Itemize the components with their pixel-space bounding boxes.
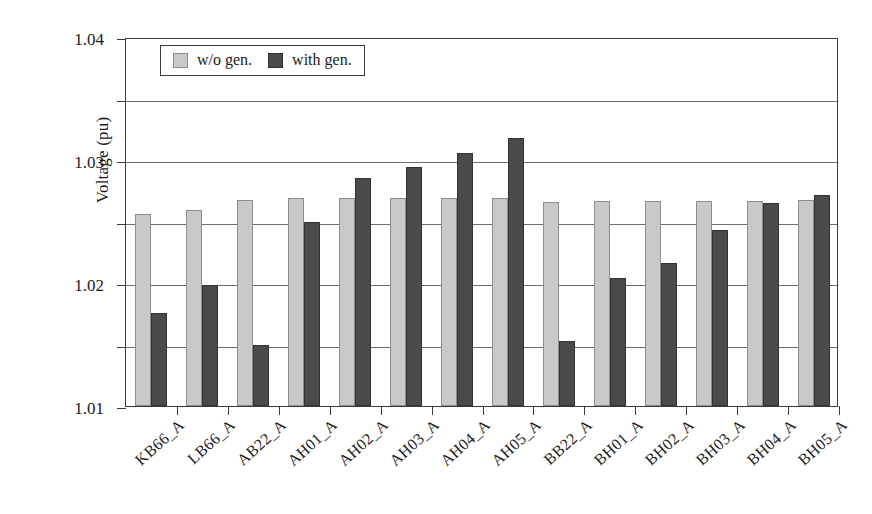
bar-group xyxy=(279,39,330,406)
x-axis-label: BH01_A xyxy=(591,416,647,469)
bar xyxy=(441,198,457,406)
x-axis-tick xyxy=(635,406,636,415)
legend-entry: w/o gen. xyxy=(173,51,252,69)
bar xyxy=(253,345,269,407)
bar-group xyxy=(228,39,279,406)
bar xyxy=(610,278,626,406)
bar xyxy=(559,341,575,406)
x-axis-label: BB22_A xyxy=(540,416,596,469)
y-axis-tick: 0.98 xyxy=(117,408,126,409)
bar-chart-figure: Voltage (pu) 1.041.031.021.011.000.990.9… xyxy=(0,0,872,514)
bar-group xyxy=(533,39,584,406)
x-axis-tick xyxy=(483,406,484,415)
legend-label: with gen. xyxy=(292,51,352,69)
bar-group xyxy=(126,39,177,406)
x-axis-tick xyxy=(839,406,840,415)
bar-group xyxy=(330,39,381,406)
bar xyxy=(508,138,524,406)
x-axis-label: BH04_A xyxy=(743,416,799,469)
bar-group xyxy=(381,39,432,406)
bar-group xyxy=(635,39,686,406)
x-axis-label: LB66_A xyxy=(184,416,239,468)
bar xyxy=(747,201,763,406)
bar-group xyxy=(686,39,737,406)
y-axis-tick: 1.02 xyxy=(117,162,126,163)
x-axis-label: BH03_A xyxy=(692,416,748,469)
bar xyxy=(304,222,320,407)
bar xyxy=(492,198,508,406)
bar-group xyxy=(177,39,228,406)
x-axis-tick xyxy=(228,406,229,415)
x-axis-tick xyxy=(788,406,789,415)
y-axis-tick-label: 1.02 xyxy=(74,276,104,296)
bar xyxy=(457,153,473,406)
x-axis-tick xyxy=(584,406,585,415)
bar-group xyxy=(432,39,483,406)
bar xyxy=(712,230,728,406)
x-axis-label: AH03_A xyxy=(386,416,443,470)
bar-group xyxy=(584,39,635,406)
bar xyxy=(186,210,202,406)
bar-group xyxy=(788,39,839,406)
bar xyxy=(763,203,779,406)
bar xyxy=(237,200,253,406)
y-axis-tick: 1.03 xyxy=(117,101,126,102)
legend-label: w/o gen. xyxy=(197,51,252,69)
x-axis-label: AH01_A xyxy=(284,416,341,470)
legend-swatch-light xyxy=(173,53,188,68)
x-axis-label: AH05_A xyxy=(488,416,545,470)
bar xyxy=(645,201,661,406)
y-axis-tick-label: 1.03 xyxy=(74,153,104,173)
legend-swatch-dark xyxy=(268,53,283,68)
x-axis-label: BH02_A xyxy=(641,416,697,469)
y-axis-tick: 1.00 xyxy=(117,285,126,286)
x-axis-label: AB22_A xyxy=(234,416,290,469)
x-axis-tick xyxy=(737,406,738,415)
legend-entry: with gen. xyxy=(268,51,352,69)
bar xyxy=(288,198,304,406)
x-axis-tick xyxy=(279,406,280,415)
bar xyxy=(594,201,610,406)
bar xyxy=(798,200,814,406)
bar xyxy=(151,313,167,406)
x-axis-tick xyxy=(177,406,178,415)
bar xyxy=(543,202,559,406)
bar xyxy=(135,214,151,406)
bars-layer xyxy=(126,39,837,406)
bar xyxy=(339,198,355,406)
x-axis-tick xyxy=(533,406,534,415)
x-axis-label: KB66_A xyxy=(132,416,188,469)
bar xyxy=(406,167,422,406)
plot-area: 1.041.031.021.011.000.990.98 xyxy=(125,38,838,407)
bar xyxy=(355,178,371,406)
x-axis-label: BH05_A xyxy=(794,416,850,469)
bar xyxy=(390,198,406,406)
bar-group xyxy=(483,39,534,406)
bar xyxy=(202,285,218,406)
bar xyxy=(661,263,677,406)
x-axis-label: AH04_A xyxy=(437,416,494,470)
x-axis-tick xyxy=(381,406,382,415)
y-axis-tick: 0.99 xyxy=(117,347,126,348)
y-axis-tick: 1.04 xyxy=(117,39,126,40)
y-axis-tick-label: 1.04 xyxy=(74,30,104,50)
bar-group xyxy=(737,39,788,406)
y-axis-tick-label: 1.01 xyxy=(74,399,104,419)
x-axis-label: AH02_A xyxy=(335,416,392,470)
chart-legend: w/o gen.with gen. xyxy=(160,45,365,76)
x-axis-tick xyxy=(686,406,687,415)
x-axis-tick xyxy=(330,406,331,415)
y-axis-tick: 1.01 xyxy=(117,224,126,225)
x-axis-tick xyxy=(432,406,433,415)
bar xyxy=(696,201,712,406)
bar xyxy=(814,195,830,406)
